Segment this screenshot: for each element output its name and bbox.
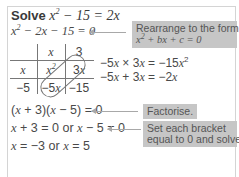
- factor-grid: x 3 x x2 3x −5 −5x −15: [10, 44, 94, 94]
- title-word: Solve: [11, 8, 46, 23]
- arrow-factorise: [92, 111, 138, 112]
- step-rearranged-equation: x2 − 2x − 15 = 0: [11, 24, 95, 39]
- step-factorised: (x + 3)(x − 5) = 0: [11, 103, 102, 118]
- row-header-neg5: −5: [10, 81, 36, 95]
- row-header-x: x: [10, 63, 36, 78]
- note-rearrange-line2: x2 + bx + c = 0: [136, 34, 233, 45]
- note-set-zero: Set each bracket equal to 0 and solve.: [143, 121, 237, 147]
- working-sum: −5x + 3x = −2x: [100, 70, 177, 85]
- working-product: −5x × 3x = −15x2: [100, 56, 189, 71]
- arrow-set-zero: [108, 129, 141, 130]
- note-factorise: Factorise.: [143, 104, 197, 119]
- note-set-line2: equal to 0 and solve.: [147, 134, 233, 145]
- title-equation: x2 − 15 = 2x: [49, 8, 119, 23]
- note-rearrange-line1: Rearrange to the form: [136, 23, 233, 34]
- note-rearrange: Rearrange to the form x2 + bx + c = 0: [132, 21, 237, 48]
- step-solution: x = −3 or x = 5: [11, 139, 90, 154]
- arrow-rearrange: [90, 32, 126, 33]
- col-header-x: x: [38, 45, 64, 60]
- problem-title: Solve x2 − 15 = 2x: [11, 8, 120, 24]
